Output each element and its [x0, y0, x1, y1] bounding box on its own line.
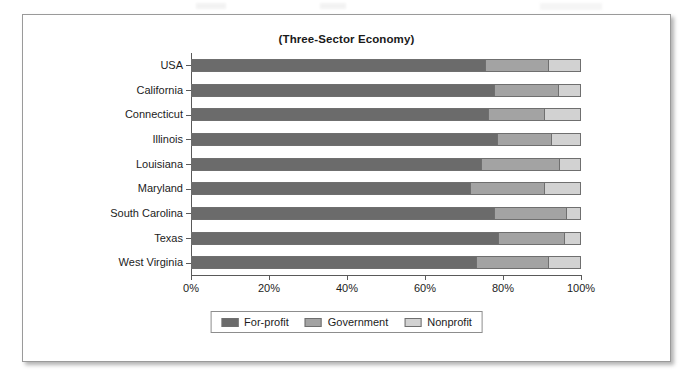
bar-row: Texas	[191, 232, 581, 245]
x-axis-label: 60%	[414, 282, 436, 294]
bar-row: South Carolina	[191, 207, 581, 220]
bar-segment-nonprofit	[548, 256, 581, 269]
bar-row: Louisiana	[191, 158, 581, 171]
bar-row: Illinois	[191, 133, 581, 146]
bar-segment-nonprofit	[564, 232, 581, 245]
x-axis-line	[191, 275, 582, 276]
legend-swatch-for-profit	[221, 318, 238, 327]
y-axis-tick	[186, 65, 191, 66]
bar-segment-government	[497, 133, 551, 146]
bar-row: USA	[191, 59, 581, 72]
bar-segment-forprofit	[191, 108, 488, 121]
y-axis-label: West Virginia	[119, 256, 183, 269]
bar-row: Connecticut	[191, 108, 581, 121]
bar-segment-government	[494, 84, 558, 97]
x-axis-label: 20%	[258, 282, 280, 294]
scan-artifact	[540, 3, 602, 10]
y-axis-label: South Carolina	[110, 207, 183, 220]
x-axis-label: 80%	[492, 282, 514, 294]
plot-area: USACaliforniaConnecticutIllinoisLouisian…	[191, 53, 581, 275]
bar-segment-nonprofit	[544, 108, 581, 121]
scan-artifact	[196, 3, 226, 9]
y-axis-tick	[186, 115, 191, 116]
y-axis-label: Illinois	[152, 133, 183, 146]
bar-segment-nonprofit	[544, 182, 581, 195]
x-axis-label: 100%	[567, 282, 595, 294]
bar-segment-forprofit	[191, 182, 470, 195]
bar-segment-nonprofit	[558, 84, 581, 97]
bar-segment-forprofit	[191, 158, 481, 171]
y-axis-label: California	[137, 84, 183, 97]
x-axis-label: 0%	[183, 282, 199, 294]
bar-segment-government	[481, 158, 559, 171]
bar-segment-government	[498, 232, 564, 245]
chart-legend: For-profit Government Nonprofit	[210, 311, 483, 333]
scanned-page-frame: (Three-Sector Economy) USACaliforniaConn…	[22, 14, 671, 362]
legend-label-nonprofit: Nonprofit	[427, 316, 472, 328]
legend-item-for-profit: For-profit	[221, 316, 289, 328]
bar-segment-nonprofit	[551, 133, 581, 146]
x-axis-tick	[581, 275, 582, 280]
legend-swatch-nonprofit	[404, 318, 421, 327]
legend-item-government: Government	[305, 316, 389, 328]
bar-segment-government	[485, 59, 548, 72]
x-axis-label: 40%	[336, 282, 358, 294]
y-axis-tick	[186, 90, 191, 91]
x-axis-tick	[425, 275, 426, 280]
chart-title: (Three-Sector Economy)	[23, 33, 670, 45]
y-axis-label: Connecticut	[125, 108, 183, 121]
bar-segment-nonprofit	[566, 207, 581, 220]
legend-swatch-government	[305, 318, 322, 327]
bar-segment-forprofit	[191, 84, 494, 97]
y-axis-tick	[186, 189, 191, 190]
bar-segment-government	[488, 108, 544, 121]
scan-artifact	[320, 3, 346, 9]
legend-label-government: Government	[328, 316, 389, 328]
x-axis-tick	[347, 275, 348, 280]
y-axis-label: Louisiana	[136, 158, 183, 171]
y-axis-tick	[186, 139, 191, 140]
x-axis-tick	[191, 275, 192, 280]
x-axis-tick	[503, 275, 504, 280]
legend-label-for-profit: For-profit	[244, 316, 289, 328]
bar-row: West Virginia	[191, 256, 581, 269]
bar-segment-forprofit	[191, 59, 485, 72]
y-axis-tick	[186, 213, 191, 214]
bar-segment-nonprofit	[548, 59, 581, 72]
x-axis-tick	[269, 275, 270, 280]
bar-segment-government	[476, 256, 548, 269]
bar-segment-forprofit	[191, 232, 498, 245]
y-axis-label: Maryland	[138, 182, 183, 195]
bar-segment-nonprofit	[559, 158, 581, 171]
bar-row: California	[191, 84, 581, 97]
y-axis-tick	[186, 263, 191, 264]
bar-row: Maryland	[191, 182, 581, 195]
y-axis-label: USA	[160, 59, 183, 72]
bar-segment-government	[470, 182, 544, 195]
legend-item-nonprofit: Nonprofit	[404, 316, 472, 328]
y-axis-tick	[186, 238, 191, 239]
bar-segment-government	[494, 207, 566, 220]
y-axis-label: Texas	[154, 232, 183, 245]
bar-segment-forprofit	[191, 207, 494, 220]
bar-segment-forprofit	[191, 256, 476, 269]
y-axis-tick	[186, 164, 191, 165]
chart-figure: (Three-Sector Economy) USACaliforniaConn…	[23, 15, 670, 361]
bar-segment-forprofit	[191, 133, 497, 146]
bar-rows: USACaliforniaConnecticutIllinoisLouisian…	[191, 53, 581, 275]
